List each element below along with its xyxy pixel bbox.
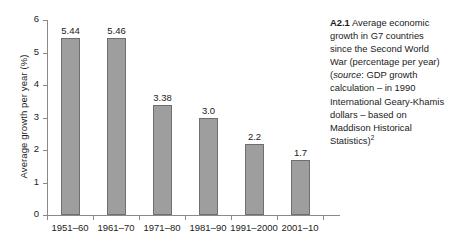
- y-tick-2: 2: [43, 150, 47, 151]
- y-tick-label-0: 0: [34, 208, 39, 219]
- y-tick-label-5: 5: [34, 46, 39, 57]
- y-axis-line: [47, 20, 48, 216]
- bar-value-1981-90: 3.0: [202, 105, 215, 116]
- x-tick-boundary-4: [231, 216, 232, 220]
- bar-chart: Average growth per year (%) 0 1 2 3 4 5: [0, 0, 345, 247]
- figure-a2-1: Average growth per year (%) 0 1 2 3 4 5: [0, 0, 451, 247]
- bar-value-1961-70: 5.46: [107, 25, 126, 36]
- caption-source-word: source: [333, 69, 361, 80]
- bar-2001-10: 1.7: [291, 160, 310, 215]
- bar-value-1971-80: 3.38: [153, 92, 172, 103]
- plot-area: 0 1 2 3 4 5 6: [47, 20, 340, 216]
- x-tick-boundary-6: [323, 216, 324, 220]
- y-tick-3: 3: [43, 118, 47, 119]
- y-tick-label-1: 1: [34, 176, 39, 187]
- y-tick-label-4: 4: [34, 78, 39, 89]
- x-category-label-1961-70: 1961–70: [98, 222, 135, 233]
- x-category-label-1951-60: 1951–60: [52, 222, 89, 233]
- bar-value-2001-10: 1.7: [294, 147, 307, 158]
- bar-1951-60: 5.44: [61, 38, 80, 215]
- x-tick-boundary-3: [185, 216, 186, 220]
- caption-footnote-marker: 2: [371, 134, 375, 141]
- x-axis-line: [47, 215, 340, 216]
- y-axis-label: Average growth per year (%): [18, 24, 29, 209]
- x-category-label-1971-80: 1971–80: [144, 222, 181, 233]
- y-tick-label-3: 3: [34, 111, 39, 122]
- x-tick-boundary-1: [93, 216, 94, 220]
- bar-value-1991-2000: 2.2: [248, 131, 261, 142]
- figure-number: A2.1: [330, 17, 350, 28]
- x-category-label-1991-2000: 1991–2000: [230, 222, 278, 233]
- x-tick-boundary-2: [139, 216, 140, 220]
- x-tick-boundary-0: [47, 216, 48, 220]
- bar-1991-2000: 2.2: [245, 144, 264, 216]
- x-category-label-1981-90: 1981–90: [190, 222, 227, 233]
- caption-text-after-source: : GDP growth calculation – in 1990 Inter…: [330, 69, 444, 145]
- x-category-label-2001-10: 2001–10: [282, 222, 319, 233]
- bar-1961-70: 5.46: [107, 38, 126, 216]
- y-tick-5: 5: [43, 53, 47, 54]
- y-tick-label-2: 2: [34, 143, 39, 154]
- y-tick-4: 4: [43, 85, 47, 86]
- y-tick-6: 6: [43, 20, 47, 21]
- bar-1971-80: 3.38: [153, 105, 172, 215]
- figure-caption: A2.1 Average economic growth in G7 count…: [330, 16, 448, 147]
- x-tick-boundary-5: [277, 216, 278, 220]
- bar-1981-90: 3.0: [199, 118, 218, 216]
- y-tick-1: 1: [43, 183, 47, 184]
- y-tick-label-6: 6: [34, 13, 39, 24]
- bar-value-1951-60: 5.44: [61, 25, 80, 36]
